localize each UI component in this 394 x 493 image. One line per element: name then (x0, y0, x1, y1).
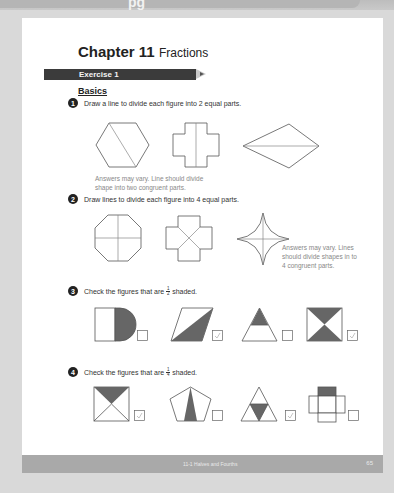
pentagon-figure (169, 386, 212, 422)
chapter-title: Fractions (159, 46, 208, 60)
triangle-figure (241, 307, 278, 342)
fraction: 1 4 (166, 368, 170, 377)
footer-section-title: 11-1 Halves and Fourths (183, 461, 237, 467)
exercise-label: Exercise 1 (79, 70, 119, 79)
page-footer: 11-1 Halves and Fourths 65 (22, 455, 383, 473)
octagon-figure (94, 214, 142, 262)
checkbox-3a[interactable] (137, 330, 148, 341)
answer-note-2: Answers may vary. Lines should divide sh… (282, 243, 357, 270)
checkbox-3c[interactable] (282, 330, 293, 341)
question-text: Draw a line to divide each figure into 2… (84, 100, 241, 107)
cross-net-figure (308, 386, 346, 423)
section-heading: Basics (78, 86, 107, 96)
question-4: 4 Check the figures that are 1 4 shaded. (68, 367, 197, 377)
answer-line: Answers may vary. Lines (282, 243, 357, 252)
chapter-heading: Chapter 11 Fractions (78, 43, 208, 60)
question-text: Check the figures that are (84, 288, 164, 295)
hexagon-figure (95, 122, 150, 168)
page-number: 65 (366, 460, 373, 466)
checkbox-4b[interactable] (212, 410, 223, 421)
answer-line: shape into two congruent parts. (95, 183, 203, 192)
question-number: 1 (68, 98, 78, 108)
question-text: Draw lines to divide each figure into 4 … (84, 196, 239, 203)
top-banner: pg (0, 0, 394, 10)
question-text: Check the figures that are (84, 369, 164, 376)
checkbox-4d[interactable] (348, 410, 359, 421)
answer-line: should divide shapes in to (282, 252, 357, 261)
question-3: 3 Check the figures that are 1 2 shaded. (68, 286, 197, 296)
question-number: 4 (68, 367, 78, 377)
checkbox-3d[interactable] (347, 330, 358, 341)
chapter-label: Chapter 11 (78, 43, 155, 60)
parallelogram-figure (170, 307, 214, 342)
triforce-figure (240, 386, 278, 422)
bowtie-square-figure (306, 307, 343, 342)
answer-line: 4 congruent parts. (282, 261, 357, 270)
half-semicircle-figure (94, 307, 137, 342)
answer-note-1: Answers may vary. Line should divide sha… (95, 174, 203, 192)
question-number: 2 (68, 194, 78, 204)
question-1: 1 Draw a line to divide each figure into… (68, 98, 241, 108)
plus-figure (165, 215, 213, 262)
answer-line: Answers may vary. Line should divide (95, 174, 203, 183)
cross-figure (172, 122, 220, 168)
checkbox-3b[interactable] (212, 330, 223, 341)
x-square-figure (93, 386, 130, 422)
banner-text: pg (128, 0, 145, 10)
kite-figure (242, 123, 320, 169)
question-text-end: shaded. (172, 369, 197, 376)
denominator: 2 (167, 292, 170, 296)
banner-tab (0, 0, 360, 8)
pencil-point-icon (200, 72, 204, 76)
question-number: 3 (68, 286, 78, 296)
checkbox-4a[interactable] (134, 410, 145, 421)
exercise-banner: Exercise 1 (44, 69, 196, 80)
denominator: 4 (167, 373, 170, 377)
question-text-end: shaded. (172, 288, 197, 295)
fraction: 1 2 (166, 287, 170, 296)
question-2: 2 Draw lines to divide each figure into … (68, 194, 239, 204)
checkbox-4c[interactable] (285, 410, 296, 421)
